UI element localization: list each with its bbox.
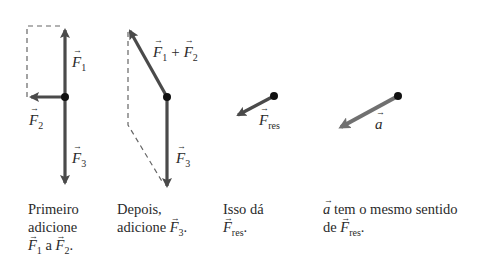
label-f3-panel2: F3 [176, 151, 190, 169]
panel-4-vectors [341, 92, 402, 127]
origin-dot [394, 92, 402, 100]
label-f3: F3 [72, 151, 86, 169]
caption-step-4: a tem o mesmo sentido de Fres. [323, 200, 458, 242]
origin-dot [163, 93, 171, 101]
panel-3-vectors [238, 92, 278, 115]
vector-a-arrow [341, 96, 398, 127]
origin-dot [61, 93, 69, 101]
label-f1: F1 [72, 55, 86, 73]
caption-step-2: Depois, adicione F3. [117, 200, 187, 242]
caption-step-1: Primeiro adicione F1 a F2. [28, 200, 79, 260]
dashed-parallelogram [27, 26, 64, 97]
label-fres: Fres [259, 113, 280, 131]
label-a: a [375, 117, 383, 132]
label-f1-plus-f2: F1+F2 [153, 45, 198, 63]
origin-dot [270, 92, 278, 100]
caption-step-3: Isso dá Fres. [223, 200, 264, 242]
label-f2: F2 [29, 113, 43, 131]
